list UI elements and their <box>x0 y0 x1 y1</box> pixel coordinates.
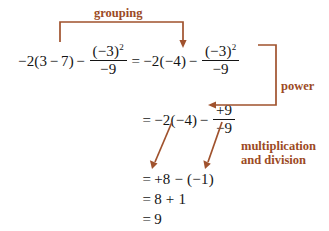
line1-rhs-leading: −2(−4) <box>143 53 186 69</box>
line1-rhs-fraction-exponent: 2 <box>232 42 237 52</box>
line1-rhs-fraction-numerator-base: (−3) <box>205 43 232 59</box>
line1-equals: = <box>129 53 143 69</box>
line3-equals: = <box>140 171 154 187</box>
line4-equals: = <box>140 191 154 207</box>
line1-lhs-fraction-numerator: (−3)2 <box>90 44 127 60</box>
line1-lhs-fraction-denominator: −9 <box>90 61 127 77</box>
line1-lhs-fraction: (−3)2 −9 <box>90 44 127 77</box>
line1-lhs-fraction-exponent: 2 <box>119 42 124 52</box>
line5-equals: = <box>140 211 154 227</box>
line1-rhs-fraction-denominator: −9 <box>202 61 239 77</box>
annotation-multiplication-and-division: multiplication and division <box>241 139 316 167</box>
line5-text: 9 <box>154 211 162 227</box>
line4-text: 8 + 1 <box>154 191 186 207</box>
division-arrowhead <box>203 160 210 169</box>
line1-lhs-fraction-numerator-base: (−3) <box>93 43 120 59</box>
line2-fraction-numerator: +9 <box>213 103 235 119</box>
line2-leading: −2(−4) <box>154 112 197 128</box>
equation-line-5: =9 <box>140 211 162 228</box>
annotation-multiplication-and-division-line2: and division <box>241 153 306 167</box>
line3-text: +8 − (−1) <box>154 171 214 187</box>
grouping-bracket-path <box>60 22 183 42</box>
line1-rhs-op: − <box>186 53 200 69</box>
equation-line-4: =8 + 1 <box>140 191 186 208</box>
multiplication-arrowhead <box>150 160 158 169</box>
line1-rhs-fraction-numerator: (−3)2 <box>202 44 239 60</box>
annotation-power: power <box>281 79 314 93</box>
line1-lhs-after-op1: 7) <box>61 53 74 69</box>
equation-line-1: −2(3−7)− (−3)2 −9 =−2(−4)− (−3)2 −9 <box>18 44 241 77</box>
line2-equals: = <box>140 112 154 128</box>
line2-op: − <box>197 112 211 128</box>
line1-lhs-op2: − <box>74 53 88 69</box>
line2-fraction-denominator: −9 <box>213 120 235 136</box>
equation-line-2: =−2(−4)− +9 −9 <box>140 103 237 136</box>
order-of-operations-figure: grouping power multiplication and divisi… <box>0 0 329 231</box>
annotation-grouping: grouping <box>94 6 142 20</box>
annotation-multiplication-and-division-line1: multiplication <box>241 139 316 153</box>
equation-line-3: =+8 − (−1) <box>140 171 214 188</box>
line1-lhs-op1: − <box>47 53 61 69</box>
line1-lhs-leading: −2(3 <box>18 53 47 69</box>
line2-fraction: +9 −9 <box>213 103 235 136</box>
line1-rhs-fraction: (−3)2 −9 <box>202 44 239 77</box>
